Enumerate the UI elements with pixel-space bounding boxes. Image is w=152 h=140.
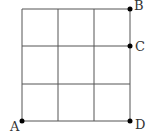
- point-b: [128, 7, 133, 12]
- label-b: B: [134, 0, 144, 13]
- label-a: A: [9, 119, 20, 134]
- label-c: C: [135, 39, 145, 54]
- grid-diagram: A B C D: [0, 0, 152, 140]
- point-a: [20, 119, 25, 124]
- point-d: [128, 119, 133, 124]
- label-d: D: [135, 117, 145, 132]
- point-c: [128, 44, 133, 49]
- grid-lines: [22, 9, 130, 121]
